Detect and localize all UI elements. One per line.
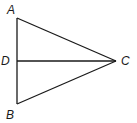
vertex-label-d: D [1, 54, 10, 68]
vertex-label-a: A [6, 3, 15, 17]
segment-ac [17, 18, 116, 61]
segment-bc [17, 61, 116, 104]
vertex-label-b: B [6, 108, 14, 122]
triangle-diagram: A D B C [0, 0, 137, 123]
vertex-label-c: C [121, 54, 130, 68]
